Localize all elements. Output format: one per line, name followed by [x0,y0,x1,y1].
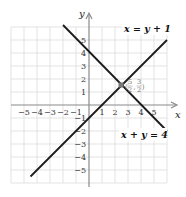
x-tick-labels: −5 −4 −3 −2 −1 1 2 3 4 5 [18,108,156,117]
svg-text:−4: −4 [74,153,86,162]
svg-text:): ) [142,83,145,91]
svg-text:3: 3 [137,78,141,86]
svg-text:−2: −2 [57,108,69,117]
y-axis-label: y [78,8,85,19]
svg-text:1: 1 [81,88,86,97]
svg-text:2: 2 [128,86,132,94]
svg-text:4: 4 [138,108,143,117]
svg-text:2: 2 [137,86,141,94]
equation-label-1: x = y + 1 [123,23,171,34]
svg-text:4: 4 [81,49,86,58]
svg-text:,: , [134,83,136,91]
graph: x y −5 −4 −3 −2 −1 1 2 3 4 5 5 4 3 2 1 −… [0,0,186,197]
svg-text:1: 1 [99,108,104,117]
svg-text:−5: −5 [74,166,86,175]
intersection-point [119,83,124,88]
svg-text:2: 2 [112,108,117,117]
svg-text:−5: −5 [18,108,30,117]
svg-text:−3: −3 [74,140,86,149]
svg-text:2: 2 [81,75,86,84]
svg-text:3: 3 [81,62,86,71]
svg-text:−4: −4 [31,108,43,117]
svg-text:−3: −3 [44,108,56,117]
x-axis-label: x [175,109,181,120]
svg-text:5: 5 [128,78,132,86]
axes [11,13,177,187]
equation-label-2: x + y = 4 [120,129,168,140]
svg-text:3: 3 [125,108,130,117]
